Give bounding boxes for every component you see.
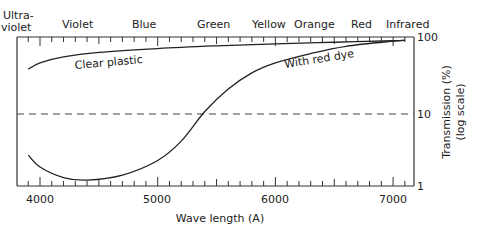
red-dye-label: With red dye xyxy=(283,47,355,71)
band-label-red: Red xyxy=(351,18,372,31)
clear-plastic-label: Clear plastic xyxy=(74,53,143,72)
y-tick-1: 1 xyxy=(417,180,424,193)
spectrum-band-labels: Ultra- violet Violet Blue Green Yellow O… xyxy=(1,9,429,34)
x-tick-5000: 5000 xyxy=(143,193,171,206)
band-label-yellow: Yellow xyxy=(251,18,286,31)
y-axis-label-line1: Transmission (%) xyxy=(440,65,453,160)
y-tick-100: 100 xyxy=(417,31,438,44)
band-label-blue: Blue xyxy=(132,18,157,31)
band-label-green: Green xyxy=(197,18,230,31)
bottom-axis-ticks xyxy=(28,177,405,186)
band-label-ultraviolet-2: violet xyxy=(1,21,32,34)
x-tick-4000: 4000 xyxy=(26,193,54,206)
band-label-infrared: Infrared xyxy=(386,18,429,31)
y-tick-10: 10 xyxy=(417,108,431,121)
y-axis-label-line2: (log scale) xyxy=(454,83,467,140)
x-tick-6000: 6000 xyxy=(261,193,289,206)
x-tick-7000: 7000 xyxy=(379,193,407,206)
band-label-violet: Violet xyxy=(62,18,94,31)
x-axis-label: Wave length (A) xyxy=(176,212,264,225)
spectral-transmission-chart: Ultra- violet Violet Blue Green Yellow O… xyxy=(0,0,477,231)
band-label-orange: Orange xyxy=(294,18,335,31)
